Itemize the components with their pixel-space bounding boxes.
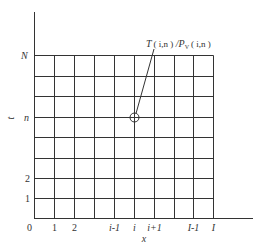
node-annotation: T( i,n ) /PV( i,n ) — [146, 38, 211, 50]
t-tick-2: 2 — [25, 173, 30, 184]
origin-label: 0 — [27, 222, 32, 233]
t-tick-n: n — [24, 112, 29, 123]
t-axis-label: t — [5, 116, 16, 119]
x-tick-i-plus-1: i+1 — [147, 222, 162, 233]
grid-diagram: T( i,n ) /PV( i,n ) N n 2 1 t 0 1 2 i-1 … — [0, 0, 265, 249]
x-tick-I-minus-1: I-1 — [187, 222, 200, 233]
t-tick-N: N — [20, 50, 29, 61]
leader-line — [136, 49, 154, 114]
x-tick-2: 2 — [72, 222, 77, 233]
x-axis-label: x — [141, 233, 147, 244]
horizontal-grid-lines — [35, 56, 214, 199]
x-tick-I: I — [211, 222, 216, 233]
x-tick-i-minus-1: i-1 — [109, 222, 120, 233]
x-tick-1: 1 — [52, 222, 57, 233]
x-tick-i: i — [133, 222, 136, 233]
t-tick-1: 1 — [25, 193, 30, 204]
